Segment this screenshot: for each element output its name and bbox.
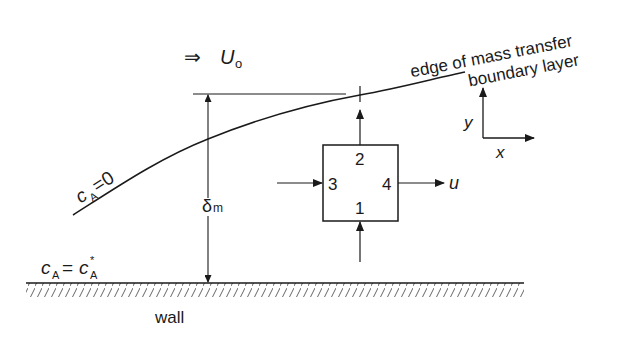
delta-subscript: m (213, 201, 223, 215)
double-arrow-icon: ⇒ (184, 46, 201, 68)
wall-c-equals: = (62, 257, 73, 278)
face-2-label: 2 (355, 150, 364, 169)
face-4-label: 4 (382, 175, 391, 194)
wall-c-subscript: A (52, 269, 60, 281)
face-1-label: 1 (355, 199, 364, 218)
mass-transfer-boundary-layer-diagram: ⇒ U o edge of mass transfer boundary lay… (0, 0, 632, 340)
thickness-label: δ m (202, 196, 223, 216)
wall-c-rhs-subscript: A (90, 269, 98, 281)
wall-condition-label: c A = c * A (41, 254, 98, 281)
boundary-layer-label: edge of mass transfer boundary layer (409, 31, 581, 101)
coordinate-axes: y x (463, 88, 534, 162)
edge-condition-label: c A =0 (71, 167, 119, 210)
wall-c-rhs-symbol: c (79, 257, 89, 278)
control-volume: 2 3 4 1 u (277, 110, 459, 262)
free-stream-subscript: o (235, 56, 242, 71)
wall-c-symbol: c (41, 257, 51, 278)
x-axis-label: x (495, 143, 505, 162)
wall: wall (26, 283, 524, 327)
free-stream-symbol: U (220, 46, 235, 68)
y-axis-label: y (463, 113, 474, 132)
delta-symbol: δ (202, 196, 212, 216)
wall-label: wall (154, 308, 184, 327)
wall-hatching (26, 283, 524, 297)
face-3-label: 3 (328, 175, 337, 194)
wall-c-rhs-superscript: * (90, 254, 95, 266)
velocity-u-label: u (449, 173, 459, 193)
free-stream-indicator: ⇒ U o (184, 46, 242, 71)
